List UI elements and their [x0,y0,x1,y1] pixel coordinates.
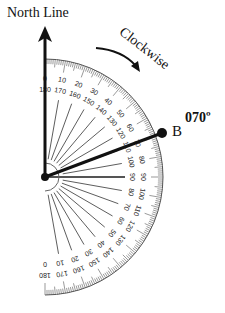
protractor-diagram: 0102030405060708090100110120130140150160… [0,0,225,313]
svg-text:160: 160 [72,264,85,275]
svg-text:130: 130 [106,114,119,128]
svg-text:170: 170 [54,86,67,95]
svg-text:30: 30 [89,87,99,97]
center-point [41,173,49,181]
svg-text:20: 20 [70,255,80,264]
svg-text:90: 90 [129,173,136,181]
svg-text:40: 40 [103,96,114,106]
north-line-label: North Line [7,5,69,21]
protractor: 0102030405060708090100110120130140150160… [39,59,163,295]
clockwise-arrow-icon [96,48,136,66]
svg-text:180: 180 [39,272,51,279]
svg-text:80: 80 [138,155,146,164]
svg-text:80: 80 [127,188,135,197]
point-b-marker [157,128,167,138]
svg-text:170: 170 [56,270,69,279]
svg-text:60: 60 [125,123,135,133]
point-b-label: B [172,123,182,140]
svg-text:90: 90 [140,173,147,181]
svg-text:50: 50 [107,228,117,239]
svg-text:100: 100 [138,188,147,201]
svg-text:0: 0 [43,261,47,268]
svg-text:30: 30 [84,248,94,258]
svg-text:70: 70 [123,202,132,212]
svg-text:110: 110 [132,204,142,217]
svg-text:50: 50 [115,108,125,119]
svg-text:10: 10 [58,76,67,84]
svg-text:120: 120 [124,220,136,234]
svg-text:150: 150 [82,95,96,107]
svg-text:40: 40 [96,239,107,249]
svg-text:140: 140 [95,103,109,116]
svg-text:100: 100 [127,155,136,168]
svg-text:130: 130 [114,234,127,248]
svg-text:20: 20 [74,80,84,89]
svg-text:150: 150 [87,256,101,268]
svg-text:160: 160 [68,89,81,100]
svg-text:60: 60 [116,216,126,226]
svg-text:120: 120 [115,126,127,140]
svg-text:10: 10 [56,259,65,267]
bearing-label: 070º [185,110,211,126]
